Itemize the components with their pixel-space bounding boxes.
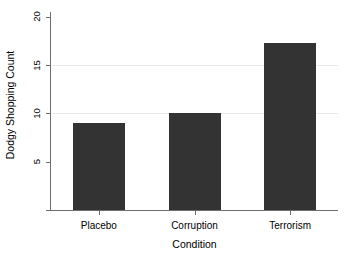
bar-terrorism — [264, 43, 316, 210]
x-axis-line — [46, 210, 338, 211]
bar-placebo — [73, 123, 125, 210]
y-tick-label-20: 20 — [31, 9, 42, 25]
bar-chart-figure: Dodgy Shopping Count 20 15 10 5 Placebo … — [0, 0, 344, 258]
y-tick-label-5: 5 — [31, 154, 42, 170]
x-tick-label-placebo: Placebo — [54, 220, 144, 231]
y-axis-title: Dodgy Shopping Count — [0, 0, 20, 210]
y-tick-label-15: 15 — [31, 57, 42, 73]
x-tick-mark-corruption — [195, 211, 196, 215]
x-tick-mark-terrorism — [290, 211, 291, 215]
x-axis-title: Condition — [51, 238, 338, 250]
plot-area — [51, 12, 338, 210]
x-tick-label-corruption: Corruption — [150, 220, 240, 231]
x-tick-mark-placebo — [99, 211, 100, 215]
y-tick-label-10: 10 — [31, 105, 42, 121]
x-tick-label-terrorism: Terrorism — [245, 220, 335, 231]
bar-corruption — [169, 113, 221, 210]
